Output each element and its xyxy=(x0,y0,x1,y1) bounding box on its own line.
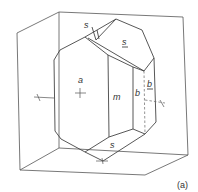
figure-caption: (a) xyxy=(177,180,188,190)
label-face-s-top-back: s xyxy=(122,37,127,47)
label-face-s-top-front: s xyxy=(84,20,89,30)
reference-box xyxy=(17,12,188,175)
crystal xyxy=(54,19,156,161)
crystal-diagram: a m b b s s s (a) xyxy=(0,0,198,192)
label-face-s-bottom: s xyxy=(110,140,115,150)
label-face-b: b xyxy=(135,88,140,98)
label-face-a: a xyxy=(78,75,83,85)
label-face-m: m xyxy=(113,92,121,102)
crystal-svg: a m b b s s s (a) xyxy=(0,0,198,192)
label-face-b-back: b xyxy=(147,79,152,89)
